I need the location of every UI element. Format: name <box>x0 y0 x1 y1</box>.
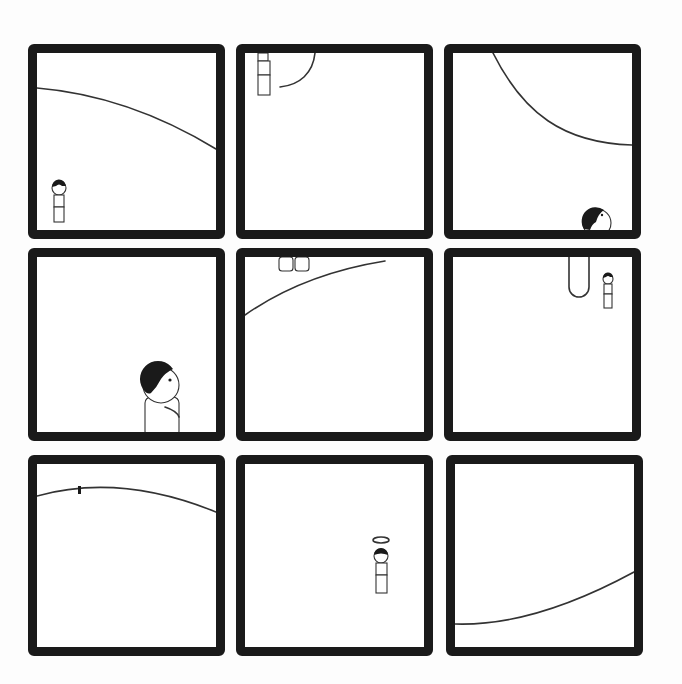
panel-7 <box>28 455 225 656</box>
halo-icon <box>373 537 389 543</box>
panel-6-art <box>453 257 632 432</box>
panel-5-art <box>245 257 424 432</box>
panel-7-art <box>37 464 216 647</box>
boy-head <box>582 207 611 237</box>
panel-9 <box>446 455 643 656</box>
panel-9-art <box>455 464 634 647</box>
boy-figure <box>52 179 66 222</box>
diagonal-curve <box>245 261 385 315</box>
feet <box>279 257 309 271</box>
panel-2 <box>236 44 433 239</box>
boy-figure-inverted <box>258 53 270 95</box>
bottom-curve <box>455 572 634 624</box>
panel-3-art <box>453 53 632 230</box>
hanging-loop <box>569 257 589 297</box>
boy-figure-with-halo <box>374 548 388 593</box>
panel-1 <box>28 44 225 239</box>
panel-1-art <box>37 53 216 230</box>
comic-strip <box>0 0 682 684</box>
panel-5 <box>236 248 433 441</box>
panel-6 <box>444 248 641 441</box>
horizon-curve <box>37 88 216 149</box>
panel-4-art <box>37 257 216 432</box>
panel-2-art <box>245 53 424 230</box>
panel-8-art <box>245 464 424 647</box>
horizon-curve <box>37 488 216 512</box>
panel-4 <box>28 248 225 441</box>
boy-closeup <box>140 361 179 437</box>
arc-curve <box>280 53 315 87</box>
large-curve <box>493 53 632 145</box>
panel-8 <box>236 455 433 656</box>
boy-figure <box>603 272 613 308</box>
panel-3 <box>444 44 641 239</box>
tiny-figure <box>78 486 81 494</box>
